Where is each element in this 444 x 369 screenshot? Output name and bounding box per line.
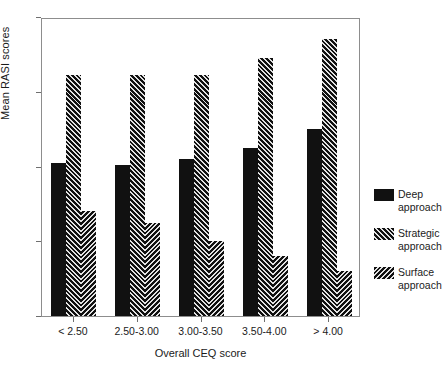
legend-swatch-icon <box>374 267 394 279</box>
bar-surface-4 <box>273 256 288 316</box>
x-tick-mark-2 <box>137 317 138 322</box>
bar-surface-3 <box>209 241 224 316</box>
bar-surface-1 <box>81 211 96 316</box>
legend-label: Strategicapproach <box>398 227 444 252</box>
bar-deep-3 <box>179 159 194 316</box>
bar-deep-1 <box>51 163 66 316</box>
x-axis-title: Overall CEQ score <box>41 347 360 359</box>
legend-label-line1: Deep <box>398 188 423 200</box>
legend-label: Deepapproach <box>398 188 444 213</box>
x-tick-mark-3 <box>201 317 202 322</box>
plot-area <box>41 18 360 317</box>
legend-swatch-icon <box>374 189 394 201</box>
x-tick-label-3: 3.00-3.50 <box>178 325 222 337</box>
x-tick-label-4: 3.50-4.00 <box>242 325 286 337</box>
legend-label: Surfaceapproach <box>398 266 444 291</box>
bar-strategic-4 <box>258 58 273 316</box>
bar-strategic-1 <box>66 75 81 316</box>
x-tick-mark-1 <box>73 317 74 322</box>
bar-surface-2 <box>145 223 160 316</box>
x-tick-mark-4 <box>264 317 265 322</box>
x-tick-label-1: < 2.50 <box>58 325 88 337</box>
chart-legend: DeepapproachStrategicapproachSurfaceappr… <box>374 188 444 305</box>
legend-label-line2: approach <box>398 201 444 214</box>
legend-label-line1: Surface <box>398 266 434 278</box>
y-axis-title: Mean RASI scores <box>0 0 11 120</box>
bar-strategic-5 <box>322 39 337 316</box>
legend-label-line2: approach <box>398 279 444 292</box>
legend-item-strategic[interactable]: Strategicapproach <box>374 227 444 253</box>
legend-swatch-icon <box>374 228 394 240</box>
bar-deep-5 <box>307 129 322 316</box>
bar-deep-2 <box>115 165 130 316</box>
x-tick-mark-5 <box>328 317 329 322</box>
bar-surface-5 <box>337 271 352 316</box>
legend-label-line1: Strategic <box>398 227 439 239</box>
legend-label-line2: approach <box>398 240 444 253</box>
bar-deep-4 <box>243 148 258 316</box>
bar-strategic-2 <box>130 75 145 316</box>
legend-item-surface[interactable]: Surfaceapproach <box>374 266 444 292</box>
x-tick-label-2: 2.50-3.00 <box>115 325 159 337</box>
legend-item-deep[interactable]: Deepapproach <box>374 188 444 214</box>
bar-strategic-3 <box>194 75 209 316</box>
bar-chart-figure: Mean RASI scores 10080604020 < 2.502.50-… <box>0 0 444 369</box>
x-tick-label-5: > 4.00 <box>313 325 343 337</box>
